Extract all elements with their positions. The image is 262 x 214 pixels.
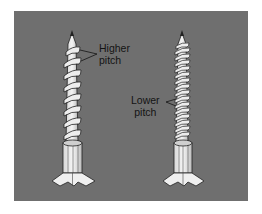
higher-pitch-label: Higher pitch bbox=[99, 42, 130, 66]
higher-pitch-leader bbox=[80, 50, 97, 61]
right-screw bbox=[163, 30, 204, 186]
left-screw bbox=[52, 30, 95, 186]
lower-pitch-leader bbox=[166, 99, 176, 106]
lower-pitch-label-line2: pitch bbox=[131, 106, 160, 118]
lower-pitch-label-line1: Lower bbox=[131, 94, 160, 106]
higher-pitch-label-line1: Higher bbox=[99, 42, 130, 54]
higher-pitch-label-line2: pitch bbox=[99, 54, 130, 66]
lower-pitch-label: Lower pitch bbox=[131, 94, 160, 118]
